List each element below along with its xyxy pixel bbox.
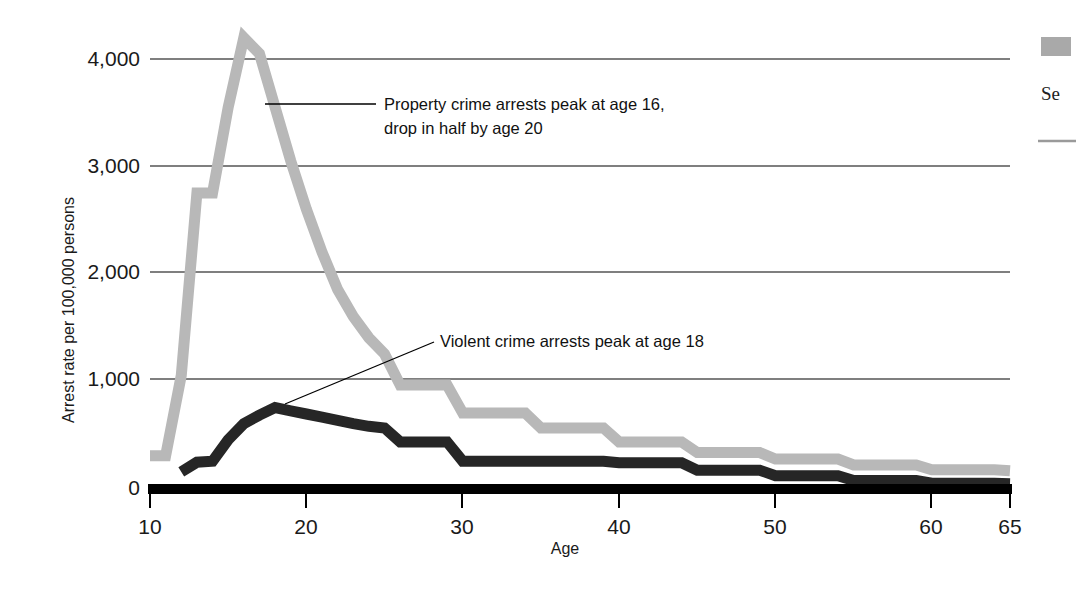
property-annotation-line1: Property crime arrests peak at age 16, [384,95,665,113]
x-tick-label-40: 40 [607,515,630,538]
x-tick-label-65: 65 [998,515,1021,538]
x-tick-label-30: 30 [450,515,473,538]
x-axis-title: Age [551,540,580,557]
y-tick-label-4000: 4,000 [87,47,140,70]
legend-swatch-property [1041,37,1071,56]
chart-background [0,0,1076,601]
x-tick-label-10: 10 [138,515,161,538]
x-tick-label-20: 20 [294,515,317,538]
x-tick-label-50: 50 [763,515,786,538]
y-tick-label-3000: 3,000 [87,154,140,177]
property-annotation-line2: drop in half by age 20 [384,119,543,137]
y-tick-label-1000: 1,000 [87,367,140,390]
y-tick-label-0: 0 [128,476,140,499]
chart-page: 4,000 3,000 2,000 1,000 0 10 20 30 40 50… [0,0,1076,601]
violent-annotation-line1: Violent crime arrests peak at age 18 [440,332,704,350]
arrest-rate-line-chart: 4,000 3,000 2,000 1,000 0 10 20 30 40 50… [0,0,1076,601]
x-tick-label-60: 60 [919,515,942,538]
y-tick-label-2000: 2,000 [87,260,140,283]
x-axis-bar [148,484,1012,494]
y-axis-title: Arrest rate per 100,000 persons [60,197,77,423]
legend-label-partial: Se [1041,83,1060,104]
